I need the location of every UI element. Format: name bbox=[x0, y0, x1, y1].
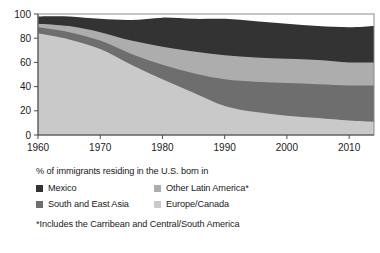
y-tick-label: 40 bbox=[20, 81, 32, 92]
x-tick-label: 1990 bbox=[214, 142, 237, 152]
y-tick-label: 100 bbox=[14, 9, 31, 20]
y-tick-label: 60 bbox=[20, 57, 32, 68]
x-tick-label: 1960 bbox=[27, 142, 50, 152]
legend-swatch-other-latin-america bbox=[154, 185, 161, 192]
area-series-group bbox=[38, 16, 374, 135]
y-tick-label: 0 bbox=[25, 130, 31, 141]
legend-swatch-mexico bbox=[36, 185, 43, 192]
legend-label-europe-canada: Europe/Canada bbox=[166, 199, 229, 210]
legend-row: Mexico Other Latin America* bbox=[36, 182, 366, 195]
immigrant-origin-stacked-area-figure: 020406080100 196019701980199020002010 % … bbox=[0, 0, 380, 253]
legend-item-mexico[interactable]: Mexico bbox=[36, 183, 154, 194]
legend-swatch-south-and-east-asia bbox=[36, 201, 43, 208]
x-tick-label: 1970 bbox=[89, 142, 112, 152]
x-axis: 196019701980199020002010 bbox=[27, 135, 374, 152]
x-tick-label: 1980 bbox=[151, 142, 174, 152]
legend-label-mexico: Mexico bbox=[48, 183, 77, 194]
legend-swatch-europe-canada bbox=[154, 201, 161, 208]
y-axis: 020406080100 bbox=[14, 9, 38, 141]
legend-item-south-and-east-asia[interactable]: South and East Asia bbox=[36, 199, 154, 210]
legend-rows: Mexico Other Latin America* South and Ea… bbox=[36, 182, 366, 211]
legend-row: South and East Asia Europe/Canada bbox=[36, 198, 366, 211]
legend-label-other-latin-america: Other Latin America* bbox=[166, 183, 249, 194]
y-tick-label: 80 bbox=[20, 33, 32, 44]
x-tick-label: 2000 bbox=[276, 142, 299, 152]
y-tick-label: 20 bbox=[20, 105, 32, 116]
chart-area: 020406080100 196019701980199020002010 bbox=[0, 0, 380, 152]
legend-label-south-and-east-asia: South and East Asia bbox=[48, 199, 129, 210]
stacked-area-chart: 020406080100 196019701980199020002010 bbox=[0, 0, 380, 152]
legend-item-europe-canada[interactable]: Europe/Canada bbox=[154, 199, 354, 210]
legend: % of immigrants residing in the U.S. bor… bbox=[36, 165, 366, 230]
legend-title: % of immigrants residing in the U.S. bor… bbox=[36, 165, 366, 177]
legend-item-other-latin-america[interactable]: Other Latin America* bbox=[154, 183, 354, 194]
legend-footnote: *Includes the Carribean and Central/Sout… bbox=[36, 218, 366, 230]
x-tick-label: 2010 bbox=[338, 142, 361, 152]
